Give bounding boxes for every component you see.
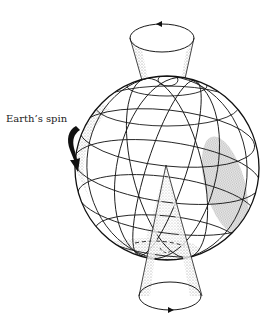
precession-arrow-bottom-icon [168,307,174,313]
precession-arrow-top-icon [156,21,162,27]
earth-precession-diagram [0,0,273,328]
earth-spin-label: Earth’s spin [6,113,67,124]
